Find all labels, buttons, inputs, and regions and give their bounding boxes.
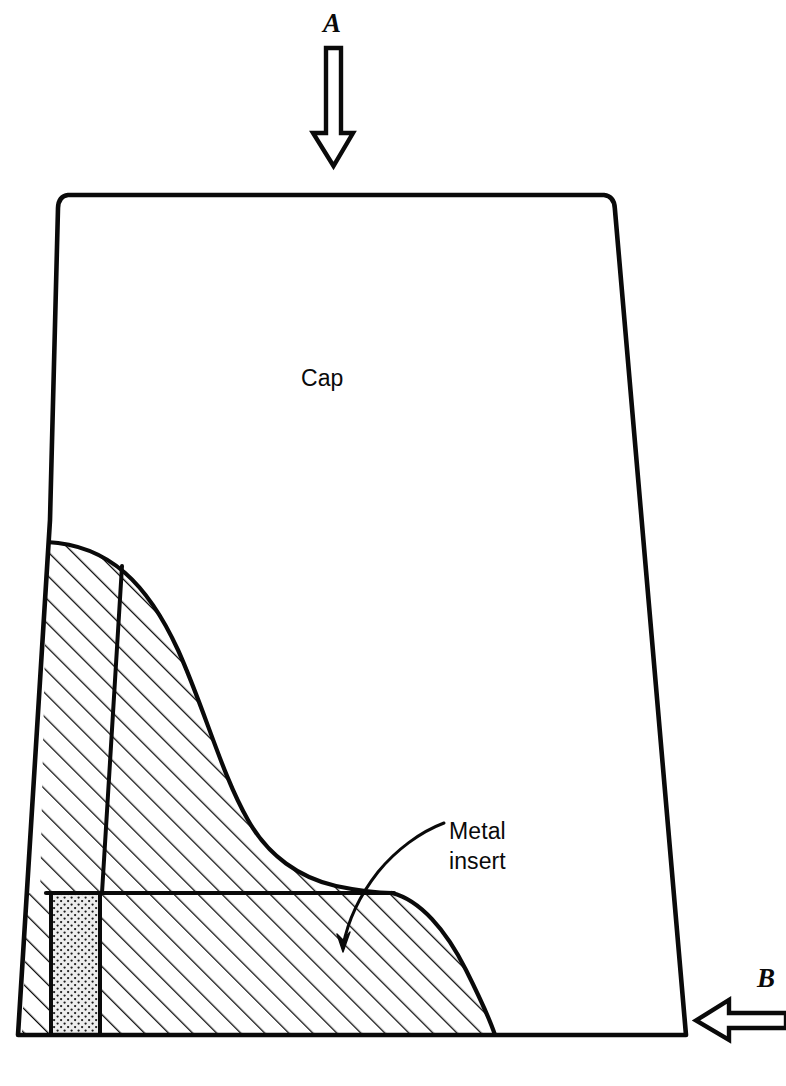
metal-insert-upper-region [40, 542, 392, 900]
cross-section-drawing [0, 0, 786, 1086]
cap-label: Cap [301, 363, 344, 393]
load-arrow-b-icon [696, 1000, 786, 1040]
insert-core-block [51, 893, 100, 1035]
figure-root: A B Cap Metal insert [0, 0, 786, 1086]
load-arrow-a-icon [313, 48, 353, 166]
metal-insert-label: Metal insert [449, 816, 506, 876]
load-label-a: A [323, 8, 341, 39]
load-label-b: B [757, 963, 775, 994]
